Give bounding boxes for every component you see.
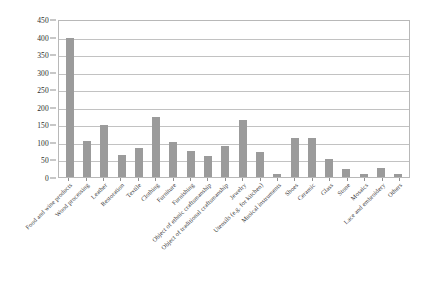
- x-axis-tick-mark: [207, 178, 208, 181]
- bar-slot: [96, 21, 113, 177]
- bar: [360, 174, 368, 177]
- bar: [325, 159, 333, 177]
- bar: [394, 174, 402, 178]
- bar-slot: [217, 21, 234, 177]
- x-axis-labels: Food and wine productsWood processingLea…: [58, 182, 410, 282]
- bar: [152, 117, 160, 177]
- bar: [100, 125, 108, 177]
- bar-slot: [147, 21, 164, 177]
- y-axis-tick-mark: [50, 37, 56, 38]
- bar: [66, 38, 74, 177]
- bar-slot: [182, 21, 199, 177]
- bar: [273, 174, 281, 178]
- bars-layer: [59, 21, 409, 177]
- bar-slot: [61, 21, 78, 177]
- y-axis-tick-label: 200: [37, 103, 49, 112]
- bar-slot: [130, 21, 147, 177]
- y-axis-tick-label: 50: [41, 156, 49, 165]
- bar: [221, 146, 229, 177]
- x-axis-tick-mark: [347, 178, 348, 181]
- y-axis-tick-label: 350: [37, 51, 49, 60]
- bar-slot: [165, 21, 182, 177]
- y-axis-tick-label: 100: [37, 138, 49, 147]
- y-axis-tick-label: 250: [37, 86, 49, 95]
- bar: [291, 138, 299, 177]
- x-axis-label-slot: Glass: [321, 182, 338, 282]
- bar-slot: [113, 21, 130, 177]
- bar-slot: [320, 21, 337, 177]
- x-axis-tick-mark: [86, 178, 87, 181]
- bar-slot: [78, 21, 95, 177]
- x-axis-label-slot: Lace and embroidery: [373, 182, 390, 282]
- y-axis: 050100150200250300350400450: [0, 20, 58, 178]
- y-axis-tick-label: 300: [37, 68, 49, 77]
- y-axis-tick-mark: [50, 90, 56, 91]
- bar-slot: [251, 21, 268, 177]
- bar-slot: [355, 21, 372, 177]
- y-axis-tick-mark: [50, 125, 56, 126]
- x-axis-tick-mark: [399, 178, 400, 181]
- x-axis-label-slot: Others: [391, 182, 408, 282]
- y-axis-tick-mark: [50, 55, 56, 56]
- bar-slot: [372, 21, 389, 177]
- bar: [342, 169, 350, 177]
- x-axis-tick-mark: [382, 178, 383, 181]
- bar: [239, 120, 247, 177]
- x-axis-tick-mark: [190, 178, 191, 181]
- x-axis-tick-mark: [138, 178, 139, 181]
- y-axis-tick-mark: [50, 20, 56, 21]
- x-axis-label: Glass: [320, 182, 335, 197]
- bar: [204, 156, 212, 177]
- x-axis-tick-mark: [173, 178, 174, 181]
- x-axis-tick-mark: [260, 178, 261, 181]
- y-axis-tick-mark: [50, 160, 56, 161]
- bar-slot: [303, 21, 320, 177]
- x-axis-tick-mark: [312, 178, 313, 181]
- bar-slot: [234, 21, 251, 177]
- y-axis-tick-label: 400: [37, 33, 49, 42]
- bar-slot: [199, 21, 216, 177]
- bar-slot: [286, 21, 303, 177]
- bar-slot: [269, 21, 286, 177]
- y-axis-tick-mark: [50, 178, 56, 179]
- plot-area: [58, 20, 410, 178]
- x-axis-label-slot: Musical instruments: [269, 182, 286, 282]
- bar-slot: [390, 21, 407, 177]
- x-axis-label-slot: Ceramic: [304, 182, 321, 282]
- bar: [118, 155, 126, 177]
- x-axis-tick-mark: [120, 178, 121, 181]
- bar: [83, 141, 91, 177]
- bar-slot: [338, 21, 355, 177]
- x-axis-tick-mark: [225, 178, 226, 181]
- bar-chart: 050100150200250300350400450 Food and win…: [0, 0, 427, 282]
- y-axis-tick-label: 450: [37, 16, 49, 25]
- bar: [308, 138, 316, 177]
- y-axis-tick-label: 0: [45, 174, 49, 183]
- y-axis-tick-mark: [50, 142, 56, 143]
- bar: [187, 151, 195, 177]
- x-axis-tick-mark: [242, 178, 243, 181]
- y-axis-tick-mark: [50, 107, 56, 108]
- y-axis-tick-mark: [50, 72, 56, 73]
- bar: [256, 152, 264, 177]
- bar: [169, 142, 177, 177]
- y-axis-tick-label: 150: [37, 121, 49, 130]
- bar: [135, 148, 143, 177]
- bar: [377, 168, 385, 177]
